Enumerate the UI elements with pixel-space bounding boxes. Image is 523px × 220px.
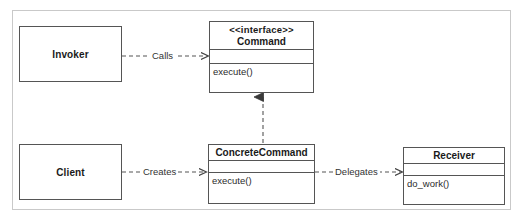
node-receiver-operations: do_work() [404,176,504,204]
node-invoker[interactable]: Invoker [19,26,122,82]
node-receiver-label: Receiver [433,150,475,162]
node-invoker-label: Invoker [52,49,88,60]
edge-label-creates: Creates [141,166,178,177]
node-command[interactable]: <<interface>> Command execute() [209,21,314,93]
node-receiver-operation-do-work: do_work() [407,178,501,190]
uml-class-diagram: Calls Creates Delegates Invoker Client <… [0,0,523,220]
node-receiver-header: Receiver [404,148,504,164]
node-command-label: Command [237,36,286,48]
edge-label-calls: Calls [150,50,175,61]
node-receiver-attributes [404,164,504,176]
node-command-operation-execute: execute() [213,66,310,78]
node-client-label: Client [56,167,84,178]
node-command-attributes [210,50,313,64]
node-command-stereotype: <<interface>> [229,24,293,36]
edge-label-delegates: Delegates [333,166,380,177]
node-concrete-command[interactable]: ConcreteCommand execute() [208,144,315,204]
node-concrete-command-operations: execute() [209,173,314,203]
node-command-header: <<interface>> Command [210,22,313,50]
node-command-operations: execute() [210,64,313,92]
node-concrete-command-operation-execute: execute() [212,175,311,187]
node-concrete-command-header: ConcreteCommand [209,145,314,161]
node-client[interactable]: Client [19,144,122,200]
node-concrete-command-attributes [209,161,314,173]
node-receiver[interactable]: Receiver do_work() [403,147,505,205]
node-concrete-command-label: ConcreteCommand [215,147,307,159]
